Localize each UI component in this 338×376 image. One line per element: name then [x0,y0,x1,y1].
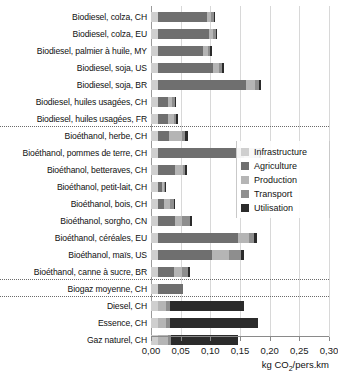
bar-segment-infrastructure [151,29,158,39]
bar-row[interactable]: Biodiesel, colza, CH [151,8,329,25]
bar-segment-utilisation [170,301,244,311]
bar-segment-production [175,165,183,175]
legend: InfrastructureAgricultureProductionTrans… [236,141,330,218]
legend-swatch-icon [241,190,249,198]
bar-segment-agriculture [158,63,213,73]
bar-row[interactable]: Biodiesel, palmier à huile, MY [151,42,329,59]
bar-segment-utilisation [175,97,177,107]
bar-segment-utilisation [188,267,190,277]
bar-segment-transport [229,250,241,260]
legend-swatch-icon [241,162,249,170]
bar-row-label: Bioéthanol, petit-lait, CH [57,182,147,192]
bar-row[interactable]: Biodiesel, colza, EU [151,25,329,42]
tick-mark [181,337,182,341]
legend-label: Infrastructure [254,147,307,157]
bar-row[interactable]: Biodiesel, soja, US [151,59,329,76]
tick-label: 0,00 [142,345,161,356]
bar-segment-utilisation [222,63,224,73]
stacked-bar[interactable] [151,199,175,209]
bar-row-label: Biogaz moyenne, CH [68,284,147,294]
bar-segment-infrastructure [151,233,158,243]
bar-segment-utilisation [176,114,178,124]
bar-segment-production [158,301,166,311]
bar-segment-production [175,216,182,226]
bar-segment-infrastructure [151,250,158,260]
stacked-bar[interactable] [151,318,258,328]
bar-segment-utilisation [190,216,192,226]
bar-segment-production [158,318,166,328]
stacked-bar[interactable] [151,165,187,175]
bar-segment-agriculture [158,216,175,226]
bar-row[interactable]: Essence, CH [151,314,329,331]
bar-segment-infrastructure [151,182,158,192]
stacked-bar[interactable] [151,301,244,311]
x-axis-caption-tail: /pers.km [293,359,329,370]
bar-row[interactable]: Biodiesel, huiles usagées, FR [151,110,329,127]
bar-segment-infrastructure [151,267,158,277]
bar-segment-utilisation [185,131,187,141]
stacked-bar[interactable] [151,29,217,39]
bar-segment-utilisation [165,182,166,192]
bar-segment-production [174,267,182,277]
legend-item[interactable]: Production [241,173,329,186]
tick-mark [151,337,152,341]
x-axis-caption: kg CO2/pers.km [262,359,329,372]
stacked-bar[interactable] [151,233,257,243]
bar-segment-utilisation [174,199,176,209]
tick-label: 0,30 [320,345,338,356]
bar-segment-agriculture [158,165,175,175]
bar-segment-agriculture [158,80,246,90]
legend-item[interactable]: Infrastructure [241,145,329,158]
bar-segment-agriculture [158,284,183,294]
stacked-bar[interactable] [151,97,176,107]
bar-segment-utilisation [210,46,212,56]
bar-row[interactable]: Diesel, CH [151,297,329,314]
bar-row[interactable]: Bioéthanol, canne à sucre, BR [151,263,329,280]
stacked-bar[interactable] [151,182,166,192]
bar-row-label: Bioéthanol, céréales, EU [55,233,147,243]
bar-segment-infrastructure [151,318,158,328]
tick-label: 0,10 [201,345,220,356]
stacked-bar[interactable] [151,284,183,294]
bar-row-label: Gaz naturel, CH [87,335,147,345]
legend-swatch-icon [241,204,249,212]
stacked-bar[interactable] [151,131,188,141]
bar-row-label: Biodiesel, colza, CH [72,12,147,22]
group-separator [0,296,329,297]
stacked-bar[interactable] [151,216,192,226]
stacked-bar[interactable] [151,80,261,90]
bar-segment-agriculture [158,114,167,124]
bar-row[interactable]: Biodiesel, soja, BR [151,76,329,93]
bar-segment-production [212,250,230,260]
bar-segment-infrastructure [151,97,158,107]
bar-segment-production [246,80,255,90]
bar-row-label: Biodiesel, huiles usagées, CH [36,97,147,107]
bar-row[interactable]: Bioéthanol, céréales, EU [151,229,329,246]
tick-mark [270,337,271,341]
stacked-bar[interactable] [151,12,215,22]
bar-segment-infrastructure [151,46,158,56]
bar-row[interactable]: Biogaz moyenne, CH [151,280,329,297]
bar-segment-utilisation [170,318,258,328]
stacked-bar[interactable] [151,63,224,73]
bar-segment-agriculture [158,97,167,107]
stacked-bar[interactable] [151,46,212,56]
bar-segment-infrastructure [151,216,158,226]
legend-item[interactable]: Agriculture [241,159,329,172]
legend-item[interactable]: Utilisation [241,201,329,214]
legend-swatch-icon [241,176,249,184]
bar-row-label: Bioéthanol, betteraves, CH [47,165,147,175]
bar-segment-agriculture [158,29,208,39]
bar-segment-transport [182,216,190,226]
bar-row[interactable]: Biodiesel, huiles usagées, CH [151,93,329,110]
tick-mark [299,337,300,341]
stacked-bar[interactable] [151,267,190,277]
bar-segment-utilisation [254,233,256,243]
bar-segment-agriculture [158,46,203,56]
legend-swatch-icon [241,148,249,156]
bar-row[interactable]: Bioéthanol, maïs, US [151,246,329,263]
stacked-bar[interactable] [151,250,244,260]
legend-item[interactable]: Transport [241,187,329,200]
stacked-bar[interactable] [151,114,178,124]
